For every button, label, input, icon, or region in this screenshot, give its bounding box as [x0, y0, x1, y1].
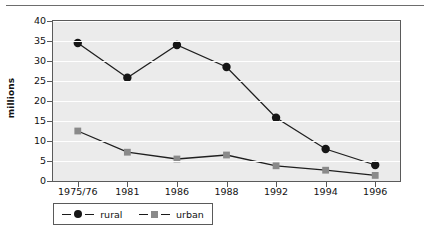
y-tick-label: 10	[22, 135, 46, 146]
square-marker-icon	[151, 211, 158, 218]
data-point-rural-1996	[371, 161, 379, 169]
gridline	[53, 41, 400, 42]
top-divider	[6, 5, 424, 6]
data-point-rural-1994	[321, 145, 329, 153]
x-tick-label: 1996	[345, 186, 405, 197]
x-tick-mark	[375, 182, 376, 187]
y-tick-label: 25	[22, 75, 46, 86]
data-point-rural-1988	[222, 63, 230, 71]
legend-line-icon	[85, 214, 94, 215]
x-tick-mark	[127, 182, 128, 187]
legend-item-urban: urban	[139, 209, 204, 220]
gridline	[53, 101, 400, 102]
gridline	[53, 141, 400, 142]
legend-line-icon	[139, 214, 148, 215]
legend-label-urban: urban	[176, 209, 204, 220]
data-point-urban-1981	[124, 149, 131, 156]
data-point-urban-1994	[322, 167, 329, 174]
chart-legend: rural urban	[53, 203, 213, 225]
y-axis-title: millions	[6, 66, 16, 130]
y-tick-label: 20	[22, 95, 46, 106]
legend-line-icon	[161, 214, 170, 215]
x-tick-mark	[78, 182, 79, 187]
x-tick-mark	[326, 182, 327, 187]
plot-area	[52, 20, 401, 182]
gridline	[53, 61, 400, 62]
gridline	[53, 121, 400, 122]
data-point-rural-1986	[173, 41, 181, 49]
legend-item-rural: rural	[62, 209, 122, 220]
y-tick-label: 5	[22, 155, 46, 166]
legend-label-rural: rural	[100, 209, 122, 220]
circle-marker-icon	[74, 210, 82, 218]
y-tick-label: 30	[22, 55, 46, 66]
chart-figure: millions 0510152025303540 1975/761981198…	[0, 0, 430, 238]
y-tick-label: 15	[22, 115, 46, 126]
legend-line-icon	[62, 214, 71, 215]
data-point-urban-1975/76	[74, 128, 81, 135]
data-point-urban-1992	[273, 162, 280, 169]
gridline	[53, 81, 400, 82]
data-point-urban-1988	[223, 152, 230, 159]
gridline	[53, 161, 400, 162]
y-tick-label: 40	[22, 15, 46, 26]
x-tick-mark	[177, 182, 178, 187]
gridline	[53, 21, 400, 22]
x-tick-mark	[227, 182, 228, 187]
data-point-urban-1996	[372, 172, 379, 179]
y-tick-label: 35	[22, 35, 46, 46]
y-tick-label: 0	[22, 175, 46, 186]
x-tick-mark	[276, 182, 277, 187]
